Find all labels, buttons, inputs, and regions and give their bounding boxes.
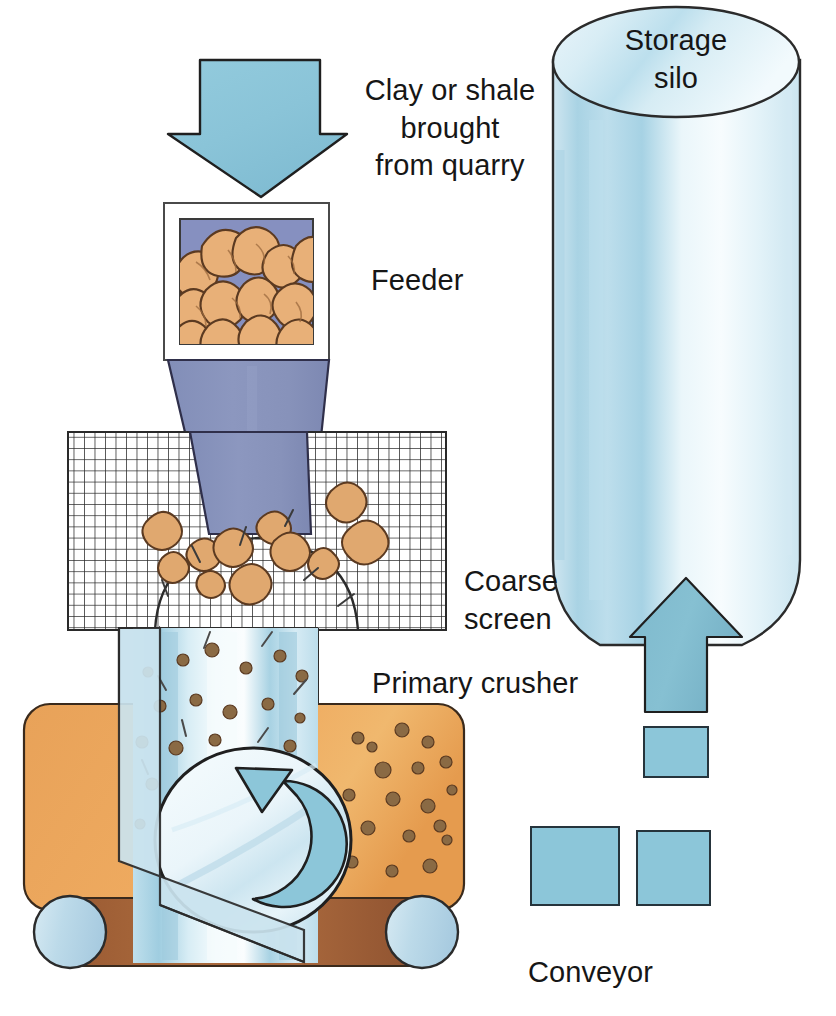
quarry-intake-down-arrow <box>168 60 347 197</box>
storage-silo <box>553 7 800 645</box>
label-coarse-screen: Coarse screen <box>464 563 654 638</box>
conveyor-roller-left <box>34 896 106 968</box>
label-primary-crusher: Primary crusher <box>372 665 652 703</box>
hopper-lower-front <box>190 432 311 534</box>
dashed-return-path <box>531 727 710 905</box>
conveyor-roller-right <box>386 896 458 968</box>
label-conveyor: Conveyor <box>528 954 748 992</box>
label-storage-silo: Storage silo <box>586 22 766 97</box>
diagram-canvas: Clay or shale brought from quarry Feeder… <box>0 0 836 1016</box>
label-feeder: Feeder <box>371 262 551 300</box>
feeder-bin <box>164 203 334 366</box>
label-quarry-intake: Clay or shale brought from quarry <box>330 72 570 185</box>
